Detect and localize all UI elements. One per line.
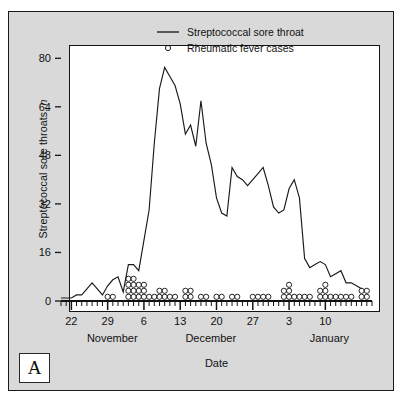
rheumatic-fever-dot — [126, 294, 131, 299]
rheumatic-fever-dot — [167, 294, 172, 299]
legend-layer: Streptococcal sore throatRheumatic fever… — [157, 26, 304, 54]
x-month-label-january: January — [310, 332, 350, 344]
axis-layer: 0163248648022296132027310 — [39, 52, 372, 327]
x-tick-label-29: 29 — [102, 315, 114, 327]
rheumatic-fever-dot — [318, 294, 323, 299]
rheumatic-fever-dot — [110, 294, 115, 299]
rheumatic-fever-dot — [136, 288, 141, 293]
rheumatic-fever-dot — [183, 294, 188, 299]
rheumatic-fever-dot — [183, 288, 188, 293]
y-tick-label-0: 0 — [45, 295, 51, 307]
rheumatic-fever-dot — [343, 294, 348, 299]
legend-label-rheumatic-fever-cases: Rheumatic fever cases — [187, 42, 294, 54]
line-series-streptococcal-sore-throat — [61, 67, 362, 298]
rheumatic-fever-dot — [157, 294, 162, 299]
panel-letter-text: A — [28, 357, 42, 379]
rheumatic-fever-dot — [136, 282, 141, 287]
rheumatic-fever-dot — [126, 282, 131, 287]
rheumatic-fever-dot — [172, 294, 177, 299]
rheumatic-fever-dot — [261, 294, 266, 299]
rheumatic-fever-dot — [126, 276, 131, 281]
rheumatic-fever-dot — [141, 282, 146, 287]
rheumatic-fever-dot — [126, 288, 131, 293]
chart-canvas: 0163248648022296132027310 Streptococcal … — [9, 12, 395, 392]
x-tick-label-13: 13 — [174, 315, 186, 327]
rheumatic-fever-dot — [188, 288, 193, 293]
panel-letter-badge: A — [19, 353, 50, 383]
figure-panel-a: 0163248648022296132027310 Streptococcal … — [0, 0, 404, 402]
rheumatic-fever-dot — [297, 294, 302, 299]
rheumatic-fever-dot — [323, 282, 328, 287]
rheumatic-fever-dot — [359, 294, 364, 299]
rheumatic-fever-dot — [333, 294, 338, 299]
legend-label-streptococcal-sore-throat: Streptococcal sore throat — [187, 26, 304, 38]
rheumatic-fever-dot — [188, 294, 193, 299]
figure-background-panel: 0163248648022296132027310 Streptococcal … — [8, 11, 394, 391]
x-tick-label-22: 22 — [65, 315, 77, 327]
rheumatic-fever-dot — [229, 294, 234, 299]
rheumatic-fever-dot — [364, 294, 369, 299]
rheumatic-fever-dot — [266, 294, 271, 299]
rheumatic-fever-dot — [162, 288, 167, 293]
x-tick-label-3: 3 — [286, 315, 292, 327]
rheumatic-fever-dot — [349, 294, 354, 299]
rheumatic-fever-dot — [131, 282, 136, 287]
y-axis-title: Streptococcal sore throats, n — [37, 54, 49, 284]
rheumatic-fever-dot — [286, 282, 291, 287]
rheumatic-fever-dot — [198, 294, 203, 299]
legend-circle-swatch — [165, 45, 170, 50]
y-axis-title-text: Streptococcal sore throats, — [37, 106, 49, 239]
x-tick-label-27: 27 — [247, 315, 259, 327]
rheumatic-fever-dot — [214, 294, 219, 299]
rheumatic-fever-dot — [338, 294, 343, 299]
x-tick-label-20: 20 — [210, 315, 222, 327]
x-axis-title: Date — [205, 357, 228, 369]
rheumatic-fever-dot — [235, 294, 240, 299]
x-month-label-november: November — [87, 332, 138, 344]
rheumatic-fever-dot — [286, 294, 291, 299]
rheumatic-fever-dot — [131, 276, 136, 281]
x-tick-label-10: 10 — [319, 315, 331, 327]
rheumatic-fever-dot — [141, 288, 146, 293]
rheumatic-fever-dot — [162, 294, 167, 299]
label-layer: NovemberDecemberJanuaryDate — [87, 332, 350, 369]
rheumatic-fever-dot — [255, 294, 260, 299]
rheumatic-fever-dot — [292, 294, 297, 299]
rheumatic-fever-dot — [157, 288, 162, 293]
rheumatic-fever-dot — [219, 294, 224, 299]
rheumatic-fever-dot — [318, 288, 323, 293]
y-axis-title-italic-n: n — [37, 100, 49, 106]
rheumatic-fever-dot — [364, 288, 369, 293]
rheumatic-fever-dot — [204, 294, 209, 299]
rheumatic-fever-dot — [141, 294, 146, 299]
rheumatic-fever-dot — [281, 294, 286, 299]
rheumatic-fever-dot — [328, 294, 333, 299]
rheumatic-fever-dot — [147, 294, 152, 299]
rheumatic-fever-dot — [152, 294, 157, 299]
rheumatic-fever-dot — [302, 294, 307, 299]
rheumatic-fever-dot — [323, 294, 328, 299]
data-layer — [61, 67, 369, 299]
rheumatic-fever-dot — [323, 288, 328, 293]
x-tick-label-6: 6 — [141, 315, 147, 327]
rheumatic-fever-dot — [131, 288, 136, 293]
rheumatic-fever-dot — [281, 288, 286, 293]
rheumatic-fever-dot — [307, 294, 312, 299]
rheumatic-fever-dot — [286, 288, 291, 293]
rheumatic-fever-dot — [136, 294, 141, 299]
rheumatic-fever-dot — [250, 294, 255, 299]
x-month-label-december: December — [185, 332, 236, 344]
rheumatic-fever-dot — [105, 294, 110, 299]
rheumatic-fever-dot — [359, 288, 364, 293]
rheumatic-fever-dot — [131, 294, 136, 299]
